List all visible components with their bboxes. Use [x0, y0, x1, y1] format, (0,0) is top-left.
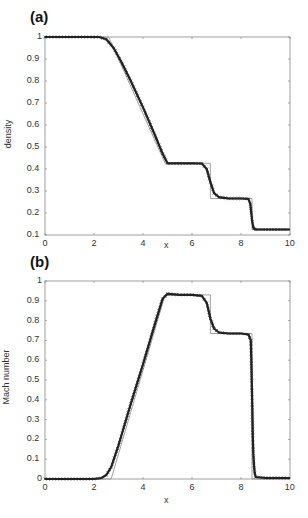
- mach-number-plot: [0, 245, 308, 518]
- y-tick-label: 1: [37, 31, 42, 41]
- y-tick-label: 0.2: [27, 433, 40, 443]
- y-tick-label: 0.1: [27, 229, 40, 239]
- density-plot: [0, 0, 308, 259]
- y-tick-label: 0.3: [27, 414, 40, 424]
- y-tick-label: 0.5: [27, 141, 40, 151]
- y-tick-label: 0.4: [27, 163, 40, 173]
- y-tick-label: 0.2: [27, 207, 40, 217]
- y-tick-label: 0.9: [27, 53, 40, 63]
- y-tick-label: 0: [37, 473, 42, 483]
- y-tick-label: 0.6: [27, 354, 40, 364]
- numerical-solution-line: [45, 37, 290, 230]
- y-tick-label: 0.7: [27, 97, 40, 107]
- y-tick-label: 1: [37, 275, 42, 285]
- x-axis-label: x: [164, 495, 169, 505]
- y-tick-label: 0.8: [27, 75, 40, 85]
- y-tick-label: 0.6: [27, 119, 40, 129]
- x-tick-label: 8: [238, 482, 243, 492]
- y-axis-label: Mach number: [1, 349, 11, 404]
- x-tick-label: 0: [42, 482, 47, 492]
- chart-panel-mach: (b) Mach number x 024681000.10.20.30.40.…: [0, 245, 308, 518]
- y-tick-label: 0.5: [27, 374, 40, 384]
- y-axis-label: density: [3, 120, 13, 149]
- y-tick-label: 0.4: [27, 394, 40, 404]
- chart-panel-density: (a) density x 02468100.10.20.30.40.50.60…: [0, 0, 308, 259]
- numerical-solution-line: [45, 294, 290, 479]
- y-tick-label: 0.1: [27, 453, 40, 463]
- y-tick-label: 0.9: [27, 295, 40, 305]
- x-tick-label: 4: [140, 482, 145, 492]
- y-tick-label: 0.8: [27, 315, 40, 325]
- exact-solution-line: [45, 37, 290, 230]
- x-tick-label: 2: [91, 482, 96, 492]
- y-tick-label: 0.7: [27, 334, 40, 344]
- axes-box: [45, 37, 290, 235]
- x-tick-label: 6: [189, 482, 194, 492]
- y-tick-label: 0.3: [27, 185, 40, 195]
- x-tick-label: 10: [285, 482, 295, 492]
